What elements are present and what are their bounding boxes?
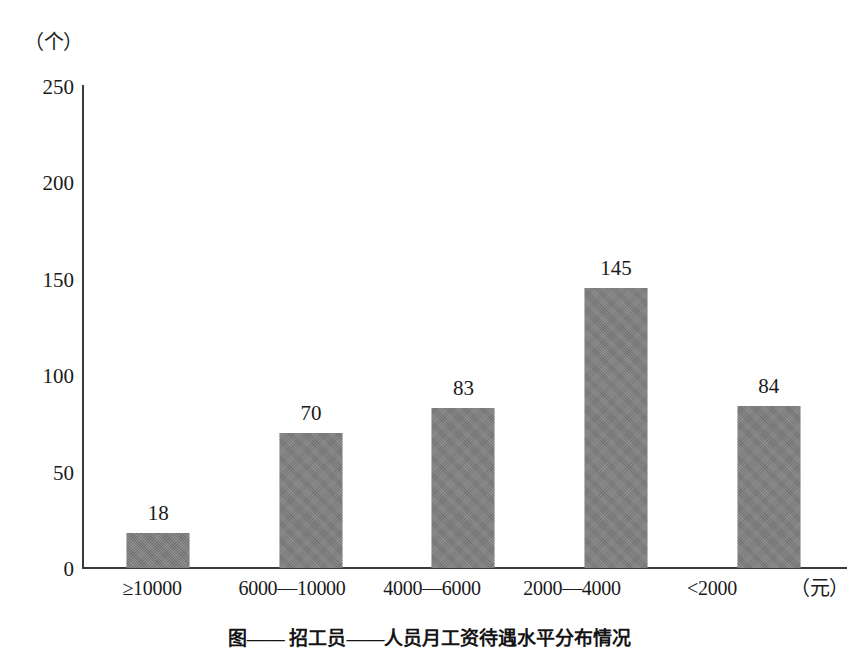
bar-value-label-0: 18 [148, 503, 169, 524]
x-category-label-1: 6000—10000 [238, 577, 345, 599]
x-category-label-4: <2000 [687, 577, 737, 599]
y-axis-tick-labels: 250 200 150 100 50 0 [0, 0, 74, 642]
bar-group-2: 83 [387, 85, 540, 568]
bar-group-0: 18 [82, 85, 235, 568]
bar-group-4: 84 [692, 85, 845, 568]
bar-3 [585, 288, 648, 568]
bar-value-label-2: 83 [453, 378, 474, 399]
bar-value-label-3: 145 [600, 258, 632, 279]
bar-value-label-4: 84 [758, 376, 779, 397]
y-tick-150: 150 [12, 270, 74, 291]
x-category-0: ≥10000 [82, 578, 222, 599]
bar-2 [432, 408, 495, 568]
y-tick-250: 250 [12, 77, 74, 98]
bar-group-3: 145 [540, 85, 693, 568]
x-axis-unit-label: （元） [790, 578, 849, 598]
x-category-2: 4000—6000 [362, 578, 502, 599]
figure-caption: 图—— 招工员——人员月工资待遇水平分布情况 [0, 628, 859, 651]
x-category-4: <2000 [642, 578, 782, 599]
bar-0 [127, 533, 190, 568]
x-category-1: 6000—10000 [222, 578, 362, 599]
y-tick-50: 50 [12, 463, 74, 484]
plot-area: 18 70 83 145 84 [82, 85, 845, 568]
y-tick-100: 100 [12, 366, 74, 387]
x-category-label-0: ≥10000 [122, 577, 181, 599]
y-tick-0: 0 [12, 559, 74, 580]
x-category-label-2: 4000—6000 [383, 577, 480, 599]
bar-value-label-1: 70 [300, 403, 321, 424]
bar-4 [737, 406, 800, 568]
x-category-3: 2000—4000 [502, 578, 642, 599]
y-tick-200: 200 [12, 173, 74, 194]
x-category-label-3: 2000—4000 [523, 577, 620, 599]
bar-1 [279, 433, 342, 568]
x-axis-category-labels: ≥10000 6000—10000 4000—6000 2000—4000 <2… [82, 578, 782, 608]
bar-group-1: 70 [235, 85, 388, 568]
